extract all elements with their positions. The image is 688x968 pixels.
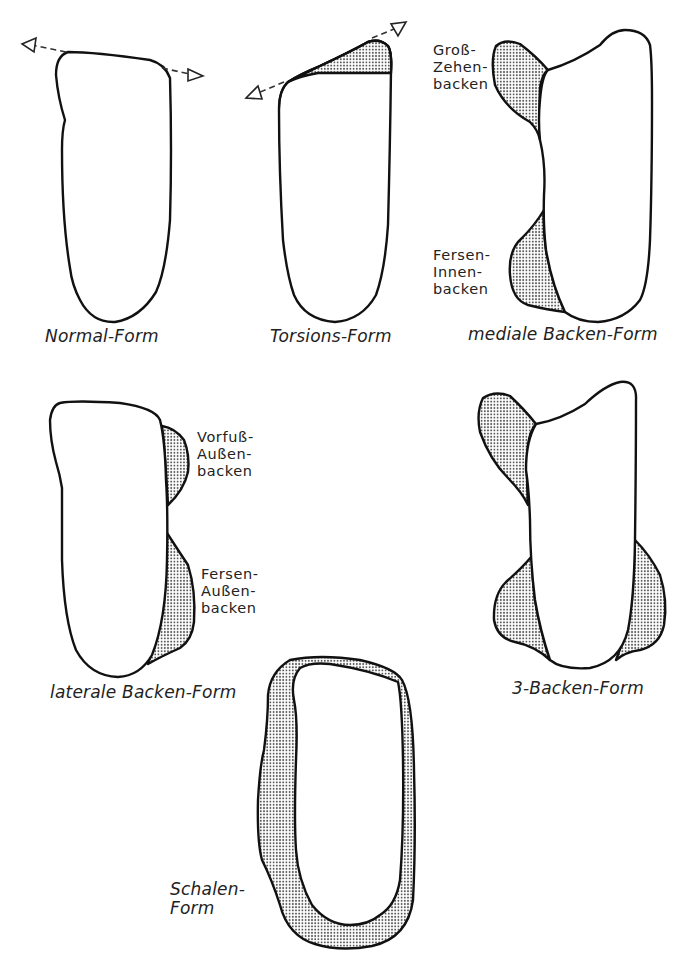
arrowhead-right-icon [188,69,203,81]
three-cheek-form-shape [479,382,666,669]
axis-dash-left [258,82,284,93]
annotation-heel-inner-cheek: Fersen- Innen- backen [433,247,491,298]
axis-dash-right [372,29,394,38]
shell-form-shape [258,657,415,949]
caption-shell-form: Schalen- Form [170,880,245,918]
annotation-line: backen [433,76,489,93]
annotation-line: Groß- [433,42,489,59]
annotation-big-toe-cheek: Groß- Zehen- backen [433,42,489,93]
caption-medial-cheek-form: mediale Backen-Form [468,324,658,344]
arrowhead-left-icon [22,38,36,52]
annotation-line: backen [433,281,491,298]
lateral-cheek-form-shape [50,402,194,678]
caption-three-cheek-form: 3-Backen-Form [512,678,644,698]
annotation-forefoot-outer-cheek: Vorfuß- Außen- backen [197,429,254,480]
torsion-form-shape [246,22,406,322]
annotation-line: backen [197,463,254,480]
caption-lateral-cheek-form: laterale Backen-Form [50,682,237,702]
annotation-line: Fersen- [201,566,259,583]
annotation-heel-outer-cheek: Fersen- Außen- backen [201,566,259,617]
caption-torsion-form: Torsions-Form [270,326,392,346]
annotation-line: Vorfuß- [197,429,254,446]
arrowhead-right-icon [391,22,406,36]
annotation-line: Fersen- [433,247,491,264]
foot-shapes-diagram [0,0,688,968]
caption-shell-form-line2: Form [170,899,245,918]
normal-form-shape [22,38,203,322]
annotation-line: Zehen- [433,59,489,76]
caption-normal-form: Normal-Form [45,326,159,346]
axis-dash-left [32,45,66,52]
annotation-line: Außen- [197,446,254,463]
annotation-line: Außen- [201,583,259,600]
caption-shell-form-line1: Schalen- [170,880,245,899]
annotation-line: Innen- [433,264,491,281]
arrowhead-left-icon [246,86,262,99]
annotation-line: backen [201,600,259,617]
medial-cheek-form-shape [493,30,652,322]
